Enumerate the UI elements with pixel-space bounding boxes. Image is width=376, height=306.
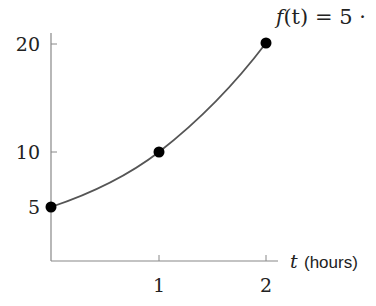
data-point-t1 [154, 147, 165, 158]
x-axis-label-unit: (hours) [304, 253, 358, 272]
function-label: f(t) = 5 · [274, 5, 366, 29]
y-tick-label-5: 5 [28, 196, 40, 218]
chart: 20 10 5 1 2 t (hours) f(t) = 5 · [0, 0, 376, 306]
curve-f [51, 43, 266, 207]
y-tick-label-10: 10 [16, 141, 40, 163]
data-point-t0 [46, 202, 57, 213]
data-point-t2 [261, 38, 272, 49]
x-axis-label-var: t [290, 250, 298, 272]
function-expression: (t) = 5 · [283, 5, 365, 29]
x-tick-label-1: 1 [153, 274, 165, 296]
y-tick-label-20: 20 [16, 33, 40, 55]
x-tick-label-2: 2 [260, 274, 272, 296]
